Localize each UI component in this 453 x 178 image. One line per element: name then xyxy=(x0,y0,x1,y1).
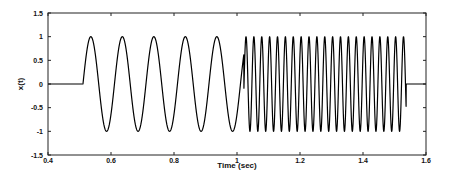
x-tick-label: 0.8 xyxy=(169,157,179,164)
x-tick-label: 1.2 xyxy=(295,157,305,164)
y-tick-label: 0.5 xyxy=(33,57,43,64)
plot-frame xyxy=(48,13,426,155)
y-tick-label: 0 xyxy=(39,81,43,88)
y-axis-label: x(t) xyxy=(16,77,25,90)
y-tick-label: 1 xyxy=(39,33,43,40)
signal-line xyxy=(48,37,426,132)
y-tick-label: -0.5 xyxy=(31,104,43,111)
y-tick-label: -1.5 xyxy=(31,152,43,159)
x-tick-label: 1.4 xyxy=(358,157,368,164)
x-axis-label: Time (sec) xyxy=(217,161,257,170)
x-tick-label: 0.6 xyxy=(106,157,116,164)
y-tick-label: 1.5 xyxy=(33,10,43,17)
x-tick-label: 0.4 xyxy=(43,157,53,164)
y-tick-label: -1 xyxy=(37,128,43,135)
x-tick-label: 1.6 xyxy=(421,157,431,164)
tick-labels: 0.40.60.811.21.41.61.510.50-0.5-1-1.5 xyxy=(31,10,431,165)
axis-ticks xyxy=(48,13,426,155)
signal-chart: 0.40.60.811.21.41.61.510.50-0.5-1-1.5 Ti… xyxy=(0,0,453,178)
